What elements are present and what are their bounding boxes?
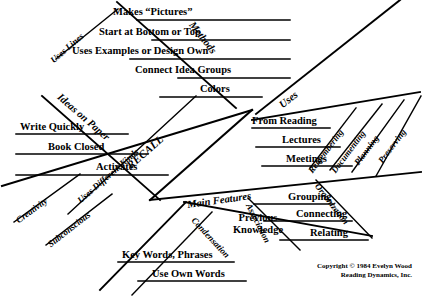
methods-item-1: Makes “Pictures” [113, 7, 192, 18]
methods-item-2: Start at Bottom or Top [99, 27, 201, 38]
main-features-item-key-words: Key Words, Phrases [122, 250, 213, 261]
ideas-item-1: Write Quickly [20, 122, 84, 133]
methods-item-3: Uses Examples or Design Own [72, 46, 208, 57]
methods-item-5: Colors [200, 84, 230, 95]
copyright-notice: Copyright © 1984 Evelyn Wood Reading Dyn… [286, 262, 412, 281]
fishbone-diagram: Makes “Pictures” Start at Bottom or Top … [0, 0, 422, 298]
ideas-item-2: Book Closed [48, 142, 104, 153]
main-features-item-use-own-words: Use Own Words [152, 269, 225, 280]
uses-item-2: Lectures [282, 135, 321, 146]
methods-item-4: Connect Idea Groups [135, 65, 231, 76]
copyright-line-1: Copyright © 1984 Evelyn Wood [286, 262, 412, 271]
main-features-item-relating: Relating [310, 228, 348, 239]
copyright-line-2: Reading Dynamics, Inc. [286, 271, 412, 280]
uses-item-1: From Reading [252, 116, 317, 127]
